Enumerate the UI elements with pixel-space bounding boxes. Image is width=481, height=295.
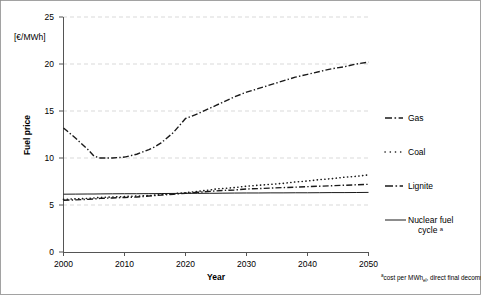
fuel-price-chart: 25 20 15 10 5 0 2000 2010 2020 2030 2040…	[0, 0, 481, 295]
y-tick-label-0: 0	[49, 247, 54, 257]
series-line-coal	[64, 175, 369, 199]
footnote-rest: , direct final decommitm	[427, 274, 481, 281]
x-tick-label-2040: 2040	[298, 259, 317, 269]
legend-label-gas: Gas	[408, 113, 424, 123]
axes	[59, 17, 369, 256]
legend-label-lignite: Lignite	[408, 181, 433, 191]
x-tick-label-2010: 2010	[115, 259, 134, 269]
chart-svg: 25 20 15 10 5 0 2000 2010 2020 2030 2040…	[0, 0, 481, 295]
y-tick-label-15: 15	[45, 106, 55, 116]
y-unit-label: [€/MWh]	[14, 32, 46, 42]
y-tick-label-25: 25	[45, 12, 55, 22]
x-axis-title: Year	[207, 272, 226, 282]
x-tick-label-2050: 2050	[359, 259, 378, 269]
x-tick-label-2020: 2020	[176, 259, 195, 269]
footnote-prefix: cost per MWh	[384, 274, 424, 282]
footnote: acost per MWhel, direct final decommitm	[381, 273, 481, 283]
y-tick-label-5: 5	[49, 200, 54, 210]
legend-label-nuclear-fuel-cycle: Nuclear fuel	[408, 215, 453, 225]
legend-label-coal: Coal	[408, 147, 426, 157]
y-tick-label-20: 20	[45, 59, 55, 69]
x-tick-label-2000: 2000	[54, 259, 73, 269]
data-series-group	[64, 62, 369, 200]
series-line-nuclear-fuel-cycle	[64, 192, 369, 194]
y-tick-labels: 25 20 15 10 5 0	[45, 12, 55, 257]
footnote-text: acost per MWhel, direct final decommitm	[381, 273, 481, 283]
x-tick-label-2030: 2030	[237, 259, 256, 269]
y-axis-title: Fuel price	[22, 115, 32, 155]
legend-label-nuclear-fuel-cycle-line2: cycle ᵃ	[418, 225, 444, 235]
y-tick-label-10: 10	[45, 153, 55, 163]
gridlines	[63, 17, 368, 205]
x-tick-labels: 2000 2010 2020 2030 2040 2050	[54, 259, 378, 269]
series-line-gas	[64, 62, 369, 158]
chart-legend: Gas Coal Lignite Nuclear fuel cycle ᵃ	[385, 113, 453, 235]
